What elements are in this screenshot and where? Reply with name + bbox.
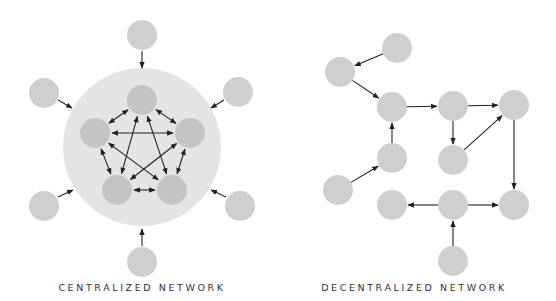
directed-edge — [464, 116, 502, 150]
spoke-arrow — [211, 100, 224, 108]
node — [438, 246, 468, 276]
node — [377, 92, 407, 122]
node — [438, 190, 468, 220]
node — [499, 190, 529, 220]
directed-edge — [355, 54, 383, 66]
node — [438, 91, 468, 121]
inner-node — [80, 118, 110, 148]
directed-edge — [352, 80, 378, 98]
outer-node — [127, 247, 157, 277]
inner-node — [157, 175, 187, 205]
outer-node — [29, 191, 59, 221]
centralized-network — [29, 20, 255, 277]
node — [323, 175, 353, 205]
inner-node — [102, 175, 132, 205]
inner-node — [175, 118, 205, 148]
decentralized-network — [323, 33, 529, 276]
outer-node — [127, 20, 157, 50]
node — [325, 57, 355, 87]
outer-node — [225, 191, 255, 221]
centralized-network-caption: CENTRALIZED NETWORK — [58, 282, 225, 293]
node — [438, 145, 468, 175]
spoke-arrow — [58, 190, 73, 197]
directed-edge — [351, 166, 378, 182]
node — [382, 33, 412, 63]
node — [377, 190, 407, 220]
outer-node — [29, 78, 59, 108]
node — [499, 90, 529, 120]
spoke-arrow — [211, 190, 226, 197]
outer-node — [223, 77, 253, 107]
decentralized-network-caption: DECENTRALIZED NETWORK — [321, 282, 507, 293]
spoke-arrow — [58, 100, 72, 108]
inner-node — [127, 85, 157, 115]
network-diagram — [0, 0, 556, 301]
node — [377, 143, 407, 173]
